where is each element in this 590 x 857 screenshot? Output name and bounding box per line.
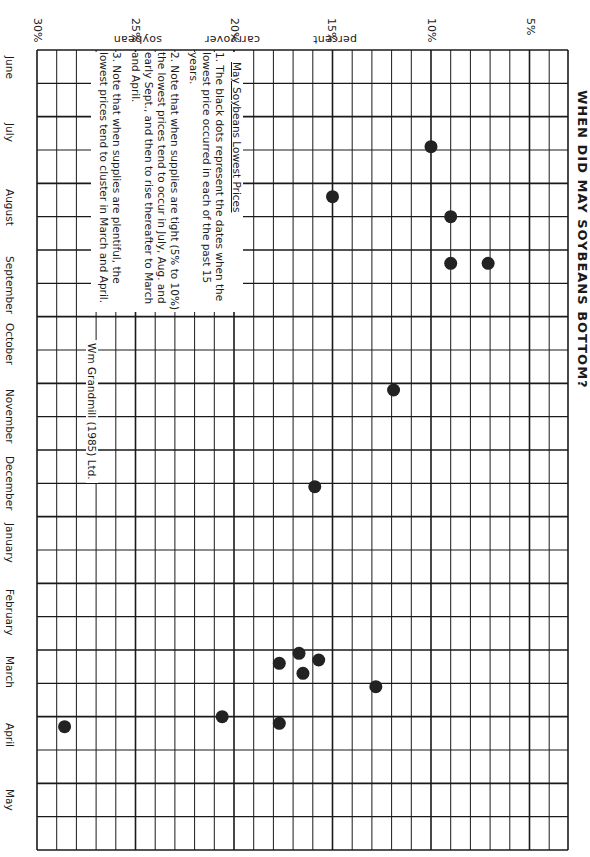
note-3: 3. Note that when supplies are plentiful… [97,52,123,312]
month-label-march: March [4,656,16,688]
data-point [326,190,339,203]
data-point [312,654,325,667]
pct-label-30: 30% [31,18,44,42]
month-label-october: October [4,323,16,365]
month-label-june: June [4,56,16,79]
month-label-january: January [4,523,16,563]
note-1: 1. The black dots represent the dates wh… [187,52,226,312]
credit-text: Wm Grandmill (1985) Ltd. [86,340,98,483]
data-point [482,257,495,270]
month-label-december: December [4,456,16,510]
pct-label-5: 5% [524,18,537,35]
month-label-november: November [4,389,16,444]
month-label-april: April [4,723,16,747]
notes-box: May Soybeans Lowest Prices 1. The black … [91,52,243,312]
data-point [444,210,457,223]
month-label-september: September [4,256,16,314]
pct-label-10: 10% [425,18,438,42]
data-point [273,657,286,670]
data-point [308,480,321,493]
note-2: 2. Note that when supplies are tight (5%… [129,52,181,312]
notes-heading: May Soybeans Lowest Prices [230,52,243,312]
data-point [58,720,71,733]
axis-word-soybean: soybean [113,33,162,46]
chart-title: WHEN DID MAY SOYBEANS BOTTOM? [575,90,590,389]
data-point [293,647,306,660]
data-point [369,680,382,693]
month-label-may: May [4,789,16,811]
data-point [425,140,438,153]
month-label-august: August [4,189,16,226]
data-point [444,257,457,270]
axis-word-carryover: carryover [205,33,260,46]
data-point [387,384,400,397]
axis-word-percent: percent [313,33,357,46]
data-point [216,710,229,723]
data-point [273,717,286,730]
month-label-february: February [4,589,16,636]
data-point [296,667,309,680]
month-label-july: July [4,123,16,142]
